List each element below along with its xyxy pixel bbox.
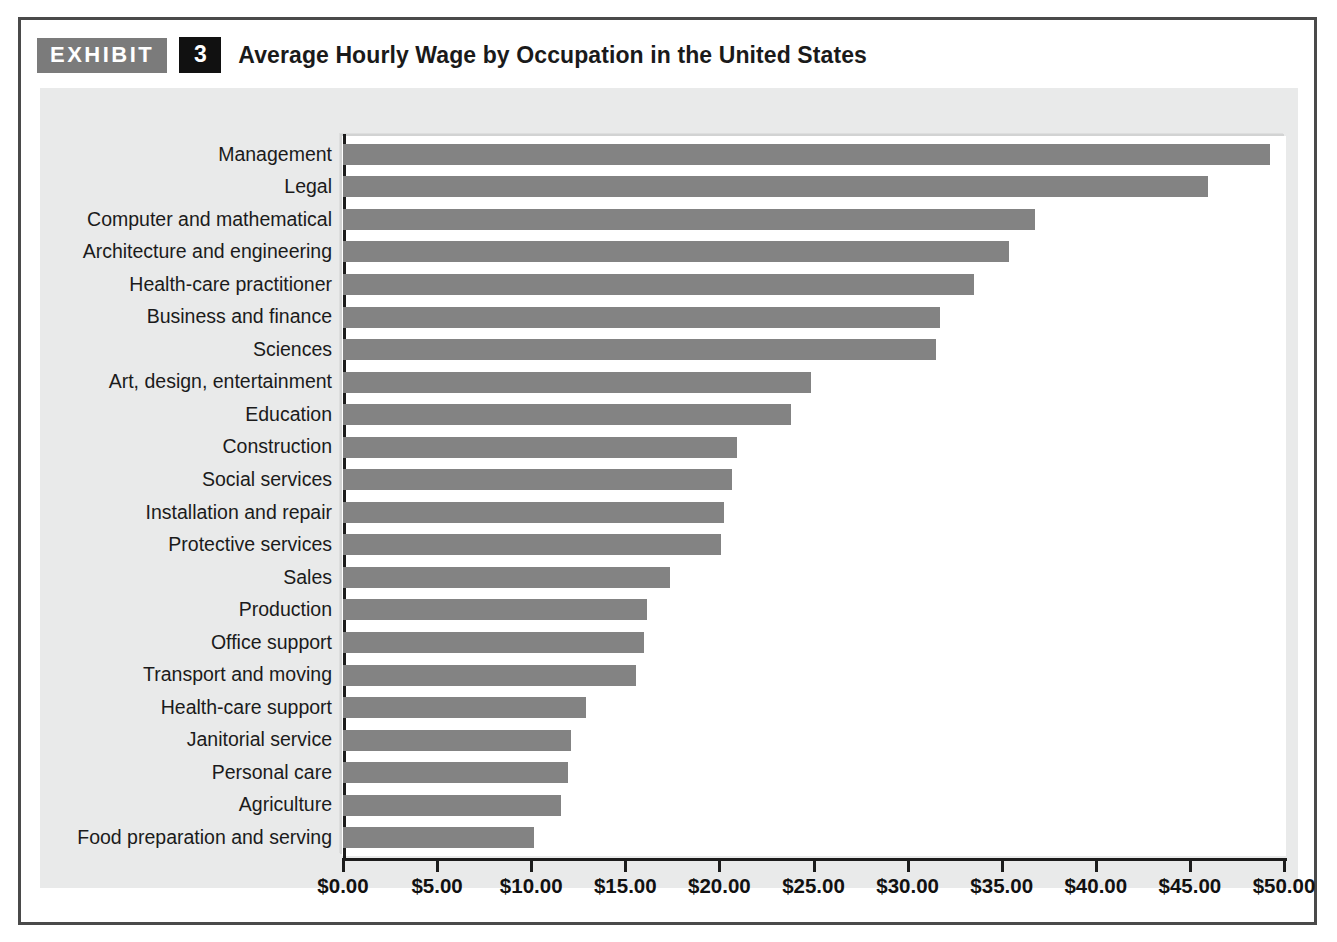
category-label-row: Personal care (40, 756, 338, 789)
x-axis-tick (1001, 858, 1004, 872)
x-axis-tick-label: $40.00 (1064, 874, 1127, 898)
bar-row (343, 463, 1284, 496)
category-label-row: Construction (40, 431, 338, 464)
bar (343, 144, 1270, 165)
category-label: Construction (223, 437, 332, 457)
category-label-row: Education (40, 398, 338, 431)
category-label: Agriculture (239, 795, 332, 815)
bar (343, 599, 647, 620)
category-label-row: Installation and repair (40, 496, 338, 529)
category-label: Management (218, 145, 332, 165)
bar (343, 437, 737, 458)
category-label-row: Sales (40, 561, 338, 594)
bar-row (343, 268, 1284, 301)
category-label-row: Business and finance (40, 301, 338, 334)
category-label-row: Transport and moving (40, 659, 338, 692)
page-title: Average Hourly Wage by Occupation in the… (238, 42, 867, 69)
category-label-row: Health-care practitioner (40, 268, 338, 301)
x-axis-tick (342, 858, 345, 872)
category-label-row: Social services (40, 463, 338, 496)
bar (343, 176, 1208, 197)
category-label: Health-care support (161, 698, 332, 718)
category-label-row: Health-care support (40, 691, 338, 724)
x-axis-tick (718, 858, 721, 872)
category-label-row: Janitorial service (40, 724, 338, 757)
bar-row (343, 594, 1284, 627)
x-axis-tick-label: $5.00 (411, 874, 462, 898)
bar (343, 241, 1009, 262)
exhibit-tag: EXHIBIT (37, 38, 167, 73)
bar (343, 665, 636, 686)
x-axis-tick (1095, 858, 1098, 872)
exhibit-frame: EXHIBIT 3 Average Hourly Wage by Occupat… (18, 17, 1317, 925)
category-label: Education (245, 405, 332, 425)
category-label: Sales (283, 568, 332, 588)
category-label-row: Architecture and engineering (40, 236, 338, 269)
category-label: Protective services (168, 535, 332, 555)
category-label: Installation and repair (146, 503, 332, 523)
category-label: Office support (211, 633, 332, 653)
bar-row (343, 756, 1284, 789)
category-label-row: Agriculture (40, 789, 338, 822)
x-axis-tick (436, 858, 439, 872)
plot-area (343, 138, 1284, 854)
bar-row (343, 236, 1284, 269)
category-label-row: Office support (40, 626, 338, 659)
category-label: Legal (284, 177, 332, 197)
bar (343, 697, 586, 718)
bar-row (343, 171, 1284, 204)
category-label-row: Computer and mathematical (40, 203, 338, 236)
x-axis-tick-label: $30.00 (876, 874, 939, 898)
bar-row (343, 203, 1284, 236)
bar (343, 762, 568, 783)
bar (343, 307, 940, 328)
x-axis-tick (624, 858, 627, 872)
category-label: Personal care (212, 763, 332, 783)
bar-row (343, 724, 1284, 757)
category-label-row: Protective services (40, 529, 338, 562)
exhibit-page: EXHIBIT 3 Average Hourly Wage by Occupat… (0, 0, 1337, 942)
exhibit-header: EXHIBIT 3 Average Hourly Wage by Occupat… (37, 36, 867, 74)
x-axis-tick-label: $45.00 (1159, 874, 1222, 898)
bar (343, 274, 974, 295)
x-axis-tick (530, 858, 533, 872)
x-axis-tick (1283, 858, 1286, 872)
bar-row (343, 431, 1284, 464)
bar (343, 795, 561, 816)
bar (343, 404, 791, 425)
x-axis-tick-label: $25.00 (782, 874, 845, 898)
chart-panel: ManagementLegalComputer and mathematical… (40, 88, 1298, 888)
category-label-row: Legal (40, 171, 338, 204)
bar-row (343, 626, 1284, 659)
bar (343, 469, 732, 490)
x-axis-tick-label: $50.00 (1253, 874, 1316, 898)
category-label: Computer and mathematical (87, 210, 332, 230)
category-label-row: Management (40, 138, 338, 171)
category-label: Production (239, 600, 332, 620)
bar-series (343, 138, 1284, 854)
category-label: Architecture and engineering (83, 242, 332, 262)
bar (343, 209, 1035, 230)
category-label: Transport and moving (143, 665, 332, 685)
category-label-row: Art, design, entertainment (40, 366, 338, 399)
bar (343, 730, 571, 751)
bar-row (343, 398, 1284, 431)
bar-row (343, 333, 1284, 366)
exhibit-number-badge: 3 (179, 37, 221, 73)
x-axis-tick (813, 858, 816, 872)
bar (343, 339, 936, 360)
category-label-row: Production (40, 594, 338, 627)
x-axis-tick-label: $35.00 (970, 874, 1033, 898)
bar-row (343, 561, 1284, 594)
category-label: Social services (202, 470, 332, 490)
x-axis-ticks (343, 858, 1287, 872)
bar-row (343, 301, 1284, 334)
bar-row (343, 821, 1284, 854)
bar-row (343, 659, 1284, 692)
category-label: Sciences (253, 340, 332, 360)
x-axis-tick (1189, 858, 1192, 872)
category-label-row: Sciences (40, 333, 338, 366)
bar-row (343, 789, 1284, 822)
y-axis-category-labels: ManagementLegalComputer and mathematical… (40, 138, 338, 854)
bar (343, 632, 644, 653)
